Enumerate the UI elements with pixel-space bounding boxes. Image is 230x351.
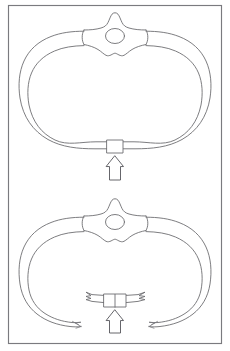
upper-clamp-buckle xyxy=(107,140,123,153)
line-art-drawing xyxy=(0,0,230,351)
figure-container: Vertebral cerclage band — intact and rel… xyxy=(0,0,230,351)
